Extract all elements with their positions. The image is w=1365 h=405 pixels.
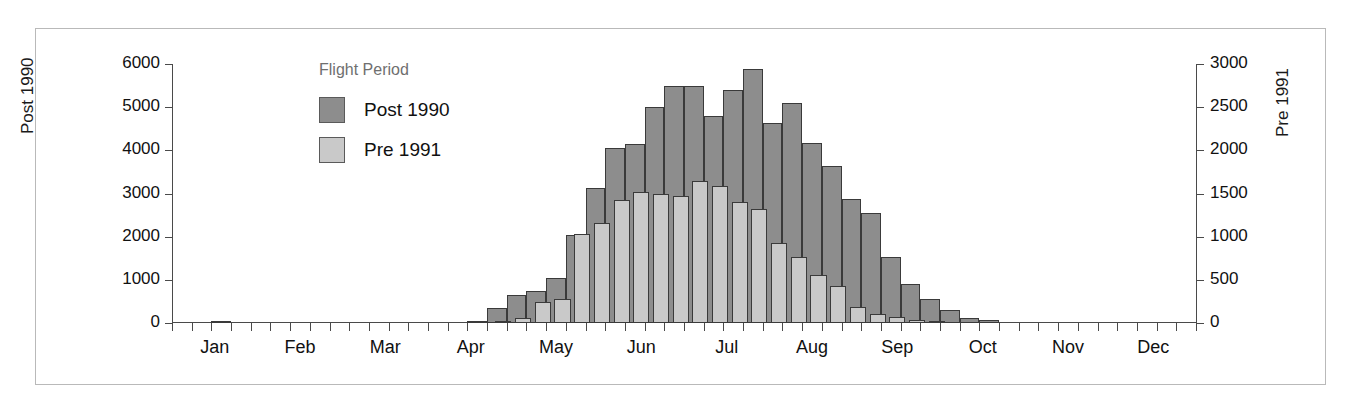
y-axis-left-tick-label: 1000 — [76, 269, 160, 289]
x-axis-tick — [526, 323, 527, 331]
bar-post-1990 — [979, 320, 999, 323]
x-axis-tick — [566, 323, 567, 331]
x-axis-tick — [1078, 323, 1079, 331]
x-axis-tick — [270, 323, 271, 331]
y-axis-left-tick — [165, 194, 172, 195]
bar-pre-1991 — [633, 192, 649, 323]
y-axis-right-tick-label: 2500 — [1210, 96, 1280, 116]
x-axis-tick — [802, 323, 803, 331]
y-axis-right-tick-label: 3000 — [1210, 53, 1280, 73]
bar-post-1990 — [960, 318, 980, 323]
y-axis-right-tick — [1197, 280, 1204, 281]
y-axis-right-tick — [1197, 107, 1204, 108]
x-axis-tick — [330, 323, 331, 331]
legend-entries: Post 1990Pre 1991 — [319, 97, 450, 163]
legend-label: Pre 1991 — [364, 139, 441, 161]
bar-pre-1991 — [732, 202, 748, 323]
x-axis-month-label: Jan — [200, 337, 229, 358]
y-axis-right-tick-label: 1500 — [1210, 183, 1280, 203]
bar-pre-1991 — [791, 257, 807, 323]
x-axis-tick — [428, 323, 429, 331]
x-axis-tick — [507, 323, 508, 331]
x-axis-tick — [881, 323, 882, 331]
x-axis-tick — [586, 323, 587, 331]
bar-pre-1991 — [554, 299, 570, 323]
y-axis-left-tick — [165, 150, 172, 151]
y-axis-left-tick — [165, 64, 172, 65]
x-axis-month-label: Apr — [457, 337, 485, 358]
y-axis-left-tick — [165, 237, 172, 238]
y-axis-left-tick-label: 0 — [76, 312, 160, 332]
x-axis-tick — [940, 323, 941, 331]
x-axis-tick — [310, 323, 311, 331]
chart-legend: Flight Period Post 1990Pre 1991 — [319, 61, 450, 177]
y-axis-right-tick-label: 1000 — [1210, 226, 1280, 246]
x-axis-tick — [251, 323, 252, 331]
x-axis-tick — [389, 323, 390, 331]
x-axis-tick — [290, 323, 291, 331]
y-axis-right-tick — [1197, 150, 1204, 151]
bar-pre-1991 — [751, 209, 767, 323]
bar-pre-1991 — [810, 275, 826, 323]
bar-pre-1991 — [673, 196, 689, 323]
bar-pre-1991 — [594, 223, 610, 323]
chart-figure: Post 1990 Pre 1991 010002000300040005000… — [35, 28, 1326, 385]
x-axis-tick — [467, 323, 468, 331]
y-axis-right-tick — [1197, 237, 1204, 238]
x-axis-tick — [999, 323, 1000, 331]
x-axis-tick — [408, 323, 409, 331]
x-axis-tick — [901, 323, 902, 331]
bar-pre-1991 — [712, 186, 728, 323]
x-axis-tick — [645, 323, 646, 331]
x-axis-tick — [1038, 323, 1039, 331]
bar-pre-1991 — [692, 181, 708, 323]
x-axis-tick — [842, 323, 843, 331]
x-axis-month-label: Dec — [1137, 337, 1169, 358]
y-axis-left-tick — [165, 107, 172, 108]
y-axis-right-tick — [1197, 323, 1204, 324]
x-axis-month-label: Oct — [969, 337, 997, 358]
bar-pre-1991 — [889, 317, 905, 323]
bar-post-1990 — [881, 257, 901, 323]
bar-pre-1991 — [614, 200, 630, 323]
x-axis-tick — [1157, 323, 1158, 331]
bar-post-1990 — [467, 321, 487, 323]
x-axis-tick — [192, 323, 193, 331]
x-axis-tick — [605, 323, 606, 331]
bar-pre-1991 — [535, 302, 551, 323]
bar-pre-1991 — [515, 318, 531, 323]
bar-pre-1991 — [909, 320, 925, 323]
x-axis-tick — [448, 323, 449, 331]
x-axis-tick — [487, 323, 488, 331]
x-axis-tick — [704, 323, 705, 331]
x-axis-tick — [546, 323, 547, 331]
y-axis-left-tick-label: 6000 — [76, 53, 160, 73]
bar-pre-1991 — [870, 314, 886, 323]
x-axis-month-label: Mar — [370, 337, 401, 358]
x-axis-tick — [1176, 323, 1177, 331]
x-axis-tick — [1117, 323, 1118, 331]
y-axis-left-tick-label: 5000 — [76, 96, 160, 116]
legend-swatch — [319, 97, 345, 123]
x-axis-month-label: Aug — [796, 337, 828, 358]
bar-pre-1991 — [830, 286, 846, 323]
bar-pre-1991 — [495, 321, 511, 323]
bar-post-1990 — [211, 321, 231, 323]
y-axis-right-tick-label: 2000 — [1210, 139, 1280, 159]
x-axis-tick — [979, 323, 980, 331]
y-axis-right-tick-label: 0 — [1210, 312, 1280, 332]
y-axis-right-tick-label: 500 — [1210, 269, 1280, 289]
y-axis-right-tick — [1197, 194, 1204, 195]
bar-pre-1991 — [574, 234, 590, 323]
x-axis-tick — [822, 323, 823, 331]
x-axis-tick — [723, 323, 724, 331]
x-axis-tick — [743, 323, 744, 331]
x-axis-tick — [664, 323, 665, 331]
x-axis-month-label: Sep — [881, 337, 913, 358]
bar-pre-1991 — [850, 307, 866, 323]
bar-pre-1991 — [771, 243, 787, 323]
y-axis-left-title: Post 1990 — [18, 57, 38, 134]
x-axis-tick — [1137, 323, 1138, 331]
y-axis-left-tick-label: 2000 — [76, 226, 160, 246]
y-axis-right-tick — [1197, 64, 1204, 65]
